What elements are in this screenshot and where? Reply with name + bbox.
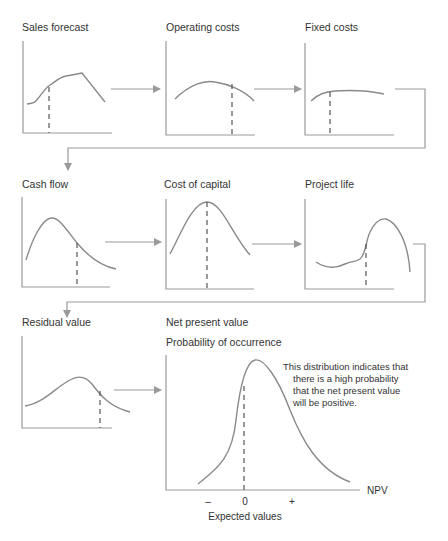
annotation-line: This distribution indicates that: [283, 361, 409, 372]
axes: [305, 199, 394, 289]
panel-title: Operating costs: [166, 21, 240, 33]
y-axis-label: Probability of occurrence: [166, 336, 282, 348]
distribution-curve: [170, 202, 250, 255]
panel-operating-costs: Operating costs: [166, 21, 255, 135]
panel-fixed-costs: Fixed costs: [305, 21, 394, 135]
annotation-line: there is a high probability: [293, 373, 399, 384]
panel-title: Cost of capital: [164, 178, 231, 190]
panel-residual-value: Residual value: [22, 316, 130, 428]
panel-sales-forecast: Sales forecast: [22, 21, 112, 133]
panel-project-life: Project life: [305, 178, 410, 289]
panel-title: Cash flow: [22, 178, 69, 190]
annotation-line: will be positive.: [292, 397, 357, 408]
panel-title: Project life: [305, 178, 354, 190]
panel-cash-flow: Cash flow: [22, 178, 116, 287]
arrow-projectlife-to-residual: [67, 244, 425, 317]
panel-title: Sales forecast: [22, 21, 89, 33]
npv-simulation-diagram: Sales forecast Operating costs Fixed cos…: [0, 0, 448, 541]
tick-zero: 0: [242, 496, 248, 507]
distribution-curve: [175, 82, 254, 101]
tick-negative: –: [205, 496, 211, 507]
x-axis-caption: Expected values: [208, 511, 281, 522]
axes: [305, 43, 394, 135]
annotation-line: that the net present value: [293, 385, 400, 396]
distribution-curve: [27, 73, 105, 104]
panel-cost-of-capital: Cost of capital: [164, 178, 254, 289]
distribution-curve: [25, 377, 130, 412]
panel-title: Residual value: [22, 316, 91, 328]
arrow-fixed-to-cashflow: [68, 89, 425, 170]
result-title: Net present value: [166, 316, 248, 328]
tick-positive: +: [289, 496, 295, 507]
distribution-curve: [311, 91, 384, 101]
distribution-curve: [316, 219, 410, 272]
panel-net-present-value: Net present value Probability of occurre…: [166, 316, 409, 522]
axes: [22, 197, 110, 287]
distribution-curve: [26, 218, 116, 269]
axes: [23, 41, 112, 133]
x-axis-label: NPV: [367, 485, 388, 496]
panel-title: Fixed costs: [305, 21, 358, 33]
annotation: This distribution indicates that there i…: [283, 361, 409, 408]
axes: [166, 41, 255, 135]
